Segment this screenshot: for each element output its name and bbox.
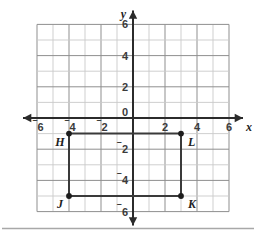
point-label-h: H: [54, 135, 65, 149]
axis-arrowhead-down: [129, 217, 137, 225]
point-label-j: J: [56, 197, 64, 211]
axis-arrowhead-left: [23, 114, 31, 122]
tick-label: 2: [122, 81, 128, 93]
tick-label: 4: [122, 50, 129, 62]
coordinate-plane-figure: –6–4–2246642–2–4–60 HLJK yx: [0, 0, 256, 238]
tick-label: –6: [117, 199, 128, 218]
tick-label: 4: [194, 121, 201, 133]
plot-point-h: [66, 131, 72, 137]
tick-label: 6: [226, 121, 232, 133]
origin-label: 0: [122, 106, 128, 118]
plot-point-l: [178, 131, 184, 137]
point-label-l: L: [187, 135, 195, 149]
tick-label: –4: [117, 168, 129, 187]
axis-arrowhead-up: [129, 10, 137, 18]
coordinate-plane-svg: –6–4–2246642–2–4–60 HLJK yx: [0, 0, 256, 238]
point-label-k: K: [187, 197, 197, 211]
x-axis-name: x: [245, 120, 252, 134]
axis-names: yx: [119, 7, 252, 134]
tick-label: 2: [162, 121, 168, 133]
axes: [23, 10, 243, 225]
plot-point-j: [66, 193, 72, 199]
tick-label: –2: [117, 137, 128, 156]
plot-point-k: [178, 193, 184, 199]
axis-arrowhead-right: [235, 114, 243, 122]
y-axis-name: y: [119, 7, 127, 21]
